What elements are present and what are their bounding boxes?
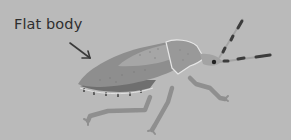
diagram-canvas: Flat body bbox=[0, 0, 291, 140]
head bbox=[200, 54, 222, 66]
insect-illustration bbox=[0, 0, 291, 140]
leg-feet bbox=[84, 96, 228, 134]
wings bbox=[78, 42, 178, 87]
arrow-icon bbox=[70, 43, 90, 58]
antennae bbox=[219, 19, 272, 62]
eye-icon bbox=[212, 60, 216, 64]
